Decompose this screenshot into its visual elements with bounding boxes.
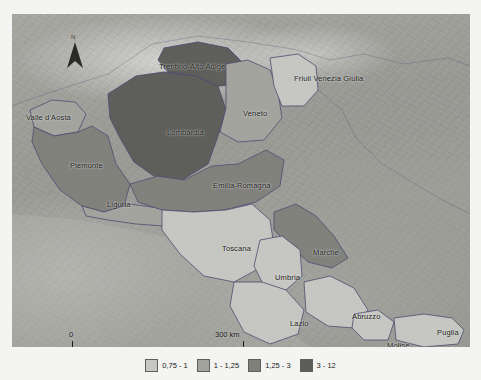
north-arrow-label: N bbox=[71, 34, 75, 40]
screenshot-root: Valle d'Aosta Piemonte Lombardia Trentin… bbox=[0, 0, 481, 380]
legend-label-0: 0,75 - 1 bbox=[162, 361, 187, 370]
scale-bar: 0 300 km bbox=[63, 330, 253, 347]
north-arrow: N bbox=[64, 36, 86, 70]
legend-label-2: 1,25 - 3 bbox=[265, 361, 290, 370]
legend-swatch-1 bbox=[197, 359, 210, 372]
legend-label-1: 1 - 1,25 bbox=[214, 361, 239, 370]
scale-bar-label-max: 300 km bbox=[215, 330, 240, 339]
map-canvas[interactable]: Valle d'Aosta Piemonte Lombardia Trentin… bbox=[12, 14, 470, 347]
region-label-emilia-romagna: Emilia-Romagna bbox=[213, 181, 271, 190]
region-label-friuli-venezia-giulia: Friuli Venezia Giulia bbox=[294, 74, 363, 83]
region-label-umbria: Umbria bbox=[275, 273, 300, 282]
region-label-veneto: Veneto bbox=[243, 109, 267, 118]
region-label-marche: Marche bbox=[313, 248, 339, 257]
region-label-abruzzo: Abruzzo bbox=[352, 312, 381, 321]
legend-item-3[interactable]: 3 - 12 bbox=[300, 359, 336, 372]
scale-bar-label-min: 0 bbox=[69, 330, 73, 339]
region-label-piemonte: Piemonte bbox=[70, 161, 103, 170]
region-label-puglia: Puglia bbox=[437, 328, 459, 337]
region-label-valle-d-aosta: Valle d'Aosta bbox=[26, 113, 71, 122]
legend-swatch-0 bbox=[145, 359, 158, 372]
region-label-trentino-alto-adige: Trentino-Alto Adige bbox=[159, 62, 225, 71]
region-label-lazio: Lazio bbox=[290, 319, 309, 328]
legend: 0,75 - 1 1 - 1,25 1,25 - 3 3 - 12 bbox=[0, 356, 481, 374]
legend-swatch-3 bbox=[300, 359, 313, 372]
region-label-lombardia: Lombardia bbox=[167, 128, 204, 137]
legend-item-2[interactable]: 1,25 - 3 bbox=[248, 359, 290, 372]
legend-item-1[interactable]: 1 - 1,25 bbox=[197, 359, 239, 372]
region-label-toscana: Toscana bbox=[222, 244, 251, 253]
legend-item-0[interactable]: 0,75 - 1 bbox=[145, 359, 187, 372]
region-label-molise: Molise bbox=[387, 341, 410, 347]
north-arrow-icon bbox=[64, 36, 86, 70]
region-label-liguria: Liguria bbox=[107, 200, 131, 209]
legend-label-3: 3 - 12 bbox=[317, 361, 336, 370]
legend-swatch-2 bbox=[248, 359, 261, 372]
scale-bar-line bbox=[72, 341, 244, 347]
